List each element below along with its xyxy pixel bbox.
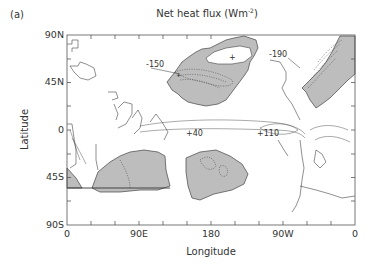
y-tick-label: 45S [24, 171, 64, 182]
annotation-plus-110: +110 [257, 129, 279, 138]
annotation-plus-40: +40 [186, 129, 203, 138]
x-tick-label: 0 [47, 228, 87, 239]
x-axis-label: Longitude [0, 246, 374, 257]
x-tick-label: 0 [335, 228, 374, 239]
y-tick-label: 90N [24, 29, 64, 40]
y-tick-label: 0 [24, 124, 64, 135]
y-axis-label: Latitude [19, 100, 30, 160]
plus-marker: + [229, 53, 236, 62]
plus-marker: + [176, 71, 181, 78]
annotation-minus-190: -190 [269, 50, 287, 59]
x-tick-label: 180 [191, 228, 231, 239]
annotation-minus-150: -150 [146, 60, 164, 69]
leader-line-190 [288, 58, 300, 68]
x-tick-label: 90W [263, 228, 303, 239]
y-tick-label: 45N [24, 76, 64, 87]
x-tick-label: 90E [119, 228, 159, 239]
